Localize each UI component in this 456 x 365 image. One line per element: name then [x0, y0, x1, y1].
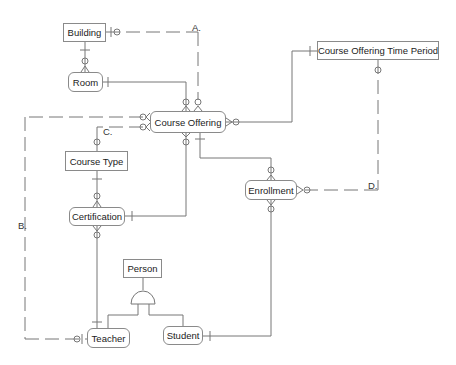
- entity-label: Course Offering Time Period: [318, 45, 438, 56]
- entity-course-offering-time-period[interactable]: Course Offering Time Period: [317, 41, 439, 60]
- entity-label: Student: [167, 330, 200, 341]
- entity-label: Building: [68, 27, 102, 38]
- entity-course-type[interactable]: Course Type: [65, 151, 128, 171]
- annotation-c: C.: [103, 126, 113, 137]
- entity-course-offering[interactable]: Course Offering: [150, 111, 226, 133]
- entity-label: Teacher: [92, 333, 126, 344]
- entity-certification[interactable]: Certification: [69, 207, 125, 226]
- entity-room[interactable]: Room: [68, 72, 103, 92]
- entity-student[interactable]: Student: [163, 326, 203, 345]
- annotation-d: D.: [368, 180, 378, 191]
- entity-label: Room: [73, 77, 98, 88]
- entity-label: Course Type: [70, 156, 124, 167]
- entity-person[interactable]: Person: [123, 259, 162, 278]
- annotation-b: B.: [18, 220, 27, 231]
- annotation-a: A.: [192, 22, 201, 33]
- entity-label: Course Offering: [155, 117, 222, 128]
- entity-enrollment[interactable]: Enrollment: [245, 180, 297, 200]
- entity-teacher[interactable]: Teacher: [87, 328, 130, 348]
- entity-label: Person: [127, 263, 157, 274]
- entity-label: Certification: [72, 211, 122, 222]
- entity-label: Enrollment: [248, 185, 293, 196]
- entity-building[interactable]: Building: [63, 23, 106, 42]
